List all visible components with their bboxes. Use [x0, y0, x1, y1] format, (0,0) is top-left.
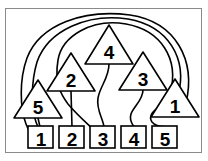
edge-triangle3-square4	[130, 90, 143, 127]
edge-triangle2-square2	[71, 91, 72, 127]
triangle-node-4[interactable]	[85, 25, 133, 64]
diagram-canvas: 5 2 4 3 1 1 2 3 4 5	[0, 0, 208, 161]
matching-diagram	[0, 0, 208, 161]
edge-triangle4-square3	[98, 64, 109, 127]
square-node-group	[28, 126, 177, 148]
triangle-node-group	[14, 25, 199, 118]
square-node-2[interactable]	[59, 126, 84, 148]
square-node-3[interactable]	[90, 126, 115, 148]
square-node-4[interactable]	[121, 126, 146, 148]
square-node-1[interactable]	[28, 126, 53, 148]
square-node-5[interactable]	[152, 126, 177, 148]
